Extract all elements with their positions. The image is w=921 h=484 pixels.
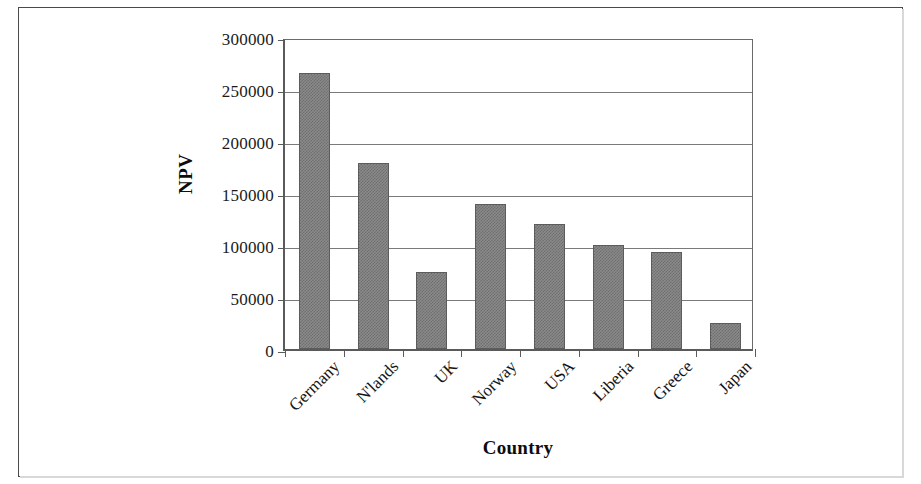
yaxis-tick-label: 100000	[222, 238, 274, 258]
xaxis-tick-label-text: Greece	[649, 357, 697, 405]
yaxis-tick	[278, 144, 285, 145]
xaxis-tick-label-text: Norway	[468, 357, 521, 410]
bar-liberia	[593, 245, 624, 349]
yaxis-tick	[278, 196, 285, 197]
xaxis-tick-label-text: N'lands	[353, 357, 403, 407]
plot-area: 050000100000150000200000250000300000 Ger…	[283, 39, 753, 351]
yaxis-tick-label: 0	[265, 342, 274, 362]
yaxis-tick-label: 250000	[222, 82, 274, 102]
yaxis-title: NPV	[175, 164, 197, 194]
gridline	[285, 144, 752, 145]
gridline	[285, 92, 752, 93]
bar-norway	[475, 204, 506, 349]
gridline	[285, 248, 752, 249]
yaxis-tick	[278, 352, 285, 353]
yaxis-tick-label: 200000	[222, 134, 274, 154]
xaxis-title: Country	[283, 437, 753, 459]
gridline	[285, 196, 752, 197]
yaxis-tick	[278, 92, 285, 93]
xaxis-tick-label-text: USA	[541, 357, 579, 395]
yaxis-tick	[278, 248, 285, 249]
yaxis-tick	[278, 300, 285, 301]
xaxis-tick-label-text: Liberia	[589, 357, 638, 406]
yaxis-tick-label: 150000	[222, 186, 274, 206]
xaxis-tick-label-text: UK	[430, 357, 462, 389]
xaxis-tick	[285, 349, 286, 357]
figure-frame: 050000100000150000200000250000300000 Ger…	[18, 7, 903, 477]
yaxis-tick	[278, 40, 285, 41]
bar-germany	[299, 73, 330, 349]
yaxis-tick-label: 300000	[222, 30, 274, 50]
xaxis-tick-label-text: Germany	[286, 357, 345, 416]
yaxis-tick-label: 50000	[231, 290, 275, 310]
xaxis-tick-label-text: Japan	[714, 357, 756, 399]
